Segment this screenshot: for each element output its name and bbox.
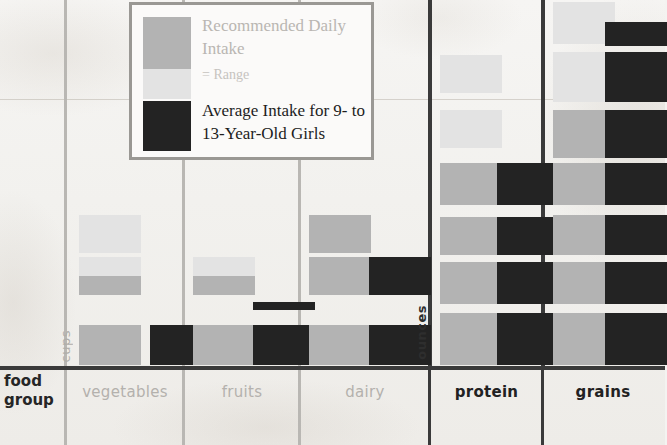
axis-line-cups (64, 0, 67, 366)
dairy-recommended-block-3 (309, 215, 371, 253)
legend-label-recommended: Recommended Daily Intake (202, 15, 370, 61)
fruits-recommended-block-1 (193, 325, 255, 365)
legend-swatch-recommended (143, 17, 191, 69)
grains-actual-block-3 (605, 215, 667, 255)
legend-label-actual: Average Intake for 9- to 13-Year-Old Gir… (202, 100, 374, 146)
protein-recommended-block-4 (440, 163, 502, 205)
vegetables-recommended-block-1 (79, 325, 141, 365)
dairy-recommended-block-1 (309, 325, 371, 365)
category-label-fruits: fruits (188, 383, 296, 401)
label-divider-foodgroup-vegetables (64, 370, 67, 445)
fruits-actual-block-1 (253, 325, 315, 365)
label-divider-dairy-protein (428, 370, 431, 445)
protein-range-block-6 (440, 55, 502, 93)
legend-swatch-actual (143, 101, 191, 151)
grains-actual-block-4 (605, 163, 667, 205)
protein-recommended-block-1 (440, 313, 502, 365)
protein-actual-block-3 (497, 217, 559, 255)
axis-unit-label-cups: cups (58, 330, 73, 362)
protein-actual-block-4 (497, 163, 559, 205)
label-divider-protein-grains (541, 370, 544, 445)
protein-recommended-block-3 (440, 217, 502, 255)
chart-legend: Recommended Daily Intake = Range Average… (129, 2, 374, 160)
grains-actual-partial-block-7 (605, 22, 667, 46)
dairy-actual-block-2 (369, 257, 431, 295)
category-label-vegetables: vegetables (70, 383, 180, 401)
dairy-recommended-block-2 (309, 257, 371, 295)
axis-unit-label-ounces: ounces (414, 305, 429, 360)
fruits-range-block-2 (193, 257, 255, 295)
protein-actual-block-1 (497, 313, 559, 365)
category-label-protein: protein (434, 383, 539, 401)
legend-label-range: = Range (202, 67, 370, 83)
vegetables-range-block-3 (79, 215, 141, 253)
vegetables-range-block-2 (79, 257, 141, 295)
category-label-dairy: dairy (304, 383, 426, 401)
protein-range-block-5 (440, 110, 502, 148)
label-divider-vegetables-fruits (182, 370, 185, 445)
grains-actual-block-2 (605, 262, 667, 304)
grains-actual-block-1 (605, 313, 667, 365)
grains-actual-block-6 (605, 52, 667, 102)
chart-baseline (0, 366, 665, 370)
category-label-grains: grains (547, 383, 659, 401)
grains-actual-block-5 (605, 110, 667, 158)
protein-actual-block-2 (497, 262, 559, 304)
fruits-actual-sliver (253, 302, 315, 310)
legend-swatch-range (143, 69, 191, 99)
axis-row-title: food group (4, 372, 60, 410)
protein-recommended-block-2 (440, 262, 502, 304)
label-divider-fruits-dairy (298, 370, 301, 445)
